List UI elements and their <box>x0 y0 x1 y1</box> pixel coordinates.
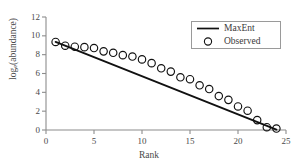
legend-circle-icon <box>195 35 221 48</box>
chart-figure: loge(abundance) 024681012 0510152025 Max… <box>0 0 298 168</box>
y-axis-tick-marks <box>42 17 46 130</box>
legend-item-observed: Observed <box>192 35 280 48</box>
legend-line-icon <box>195 22 221 35</box>
legend-item-maxent: MaxEnt <box>192 22 280 35</box>
x-axis-tick-marks <box>46 130 286 134</box>
legend-label-observed: Observed <box>224 35 260 48</box>
x-axis-label: Rank <box>0 150 298 160</box>
chart-legend: MaxEnt Observed <box>191 21 281 49</box>
maxent-line-series <box>56 42 277 130</box>
legend-label-maxent: MaxEnt <box>224 22 255 35</box>
